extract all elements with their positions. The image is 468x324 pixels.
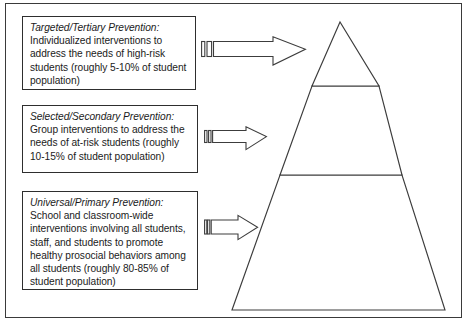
text-box-heading-targeted: Targeted/Tertiary Prevention — [30, 22, 156, 33]
text-box-universal-primary: Universal/Primary Prevention: School and… — [22, 191, 198, 290]
text-box-body-universal: School and classroom-wide interventions … — [30, 210, 186, 287]
pyramid-middle-tier — [280, 86, 402, 175]
text-box-body-selected: Group interventions to address the needs… — [30, 124, 185, 161]
pyramid-bottom-tier — [232, 175, 445, 310]
text-box-heading-colon-targeted: : — [156, 22, 159, 33]
text-box-heading-colon-universal: : — [161, 197, 164, 208]
diagram-canvas: Targeted/Tertiary Prevention: Individual… — [0, 0, 468, 324]
text-box-targeted-tertiary: Targeted/Tertiary Prevention: Individual… — [22, 16, 196, 90]
three-tier-pyramid — [222, 14, 458, 318]
text-box-heading-universal: Universal/Primary Prevention — [30, 197, 161, 208]
text-box-heading-colon-selected: : — [171, 111, 174, 122]
text-box-heading-selected: Selected/Secondary Prevention — [30, 111, 171, 122]
text-box-body-targeted: Individualized interventions to address … — [30, 35, 186, 86]
pyramid-top-tier — [312, 22, 379, 86]
text-box-selected-secondary: Selected/Secondary Prevention: Group int… — [22, 105, 198, 173]
